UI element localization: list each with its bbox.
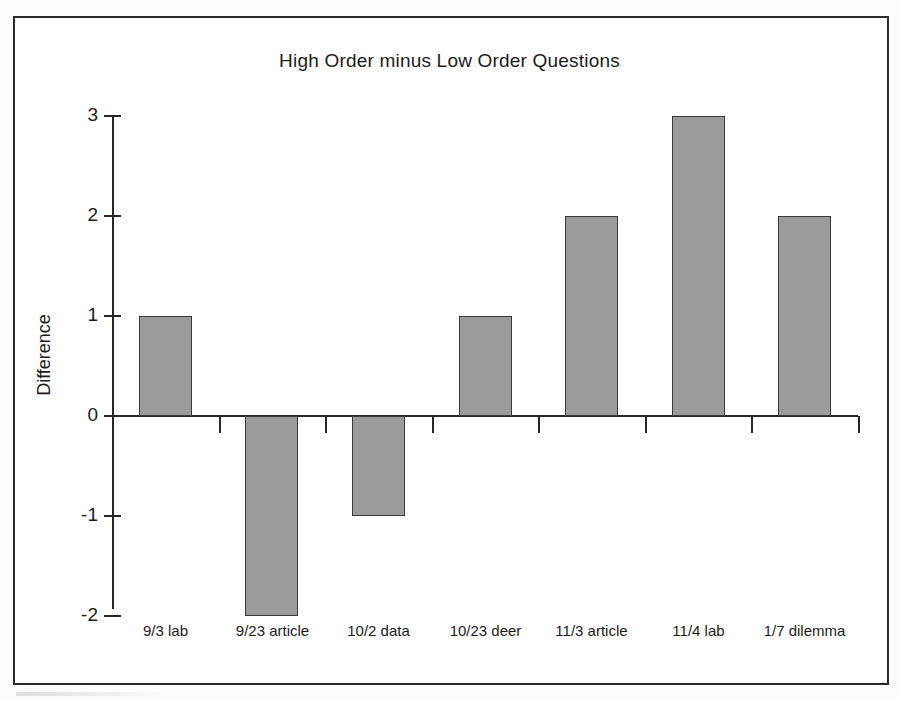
x-axis-category-label: 10/23 deer — [432, 622, 539, 639]
y-axis-tick-label-text: -1 — [58, 505, 98, 524]
scan-edge-artifact — [16, 692, 266, 696]
bar-chart: High Order minus Low Order Questions Dif… — [0, 0, 899, 701]
x-axis-tick — [645, 416, 647, 433]
y-axis-tick — [104, 115, 121, 117]
y-axis-label: Difference — [34, 300, 54, 410]
y-axis-tick-label-text: 3 — [58, 105, 98, 124]
x-axis-category-label: 10/2 data — [325, 622, 432, 639]
bar — [778, 216, 831, 416]
y-axis-tick-label: 2 — [54, 205, 98, 225]
y-axis-line — [112, 115, 114, 609]
x-axis-tick — [219, 416, 221, 433]
bar — [139, 316, 192, 416]
x-axis-category-label: 11/4 lab — [645, 622, 752, 639]
y-axis-tick — [104, 615, 121, 617]
chart-title: High Order minus Low Order Questions — [0, 50, 899, 72]
scanned-page: High Order minus Low Order Questions Dif… — [0, 0, 899, 701]
y-axis-tick-label-text: 1 — [58, 305, 98, 324]
bar — [672, 116, 725, 416]
y-axis-tick — [104, 315, 121, 317]
y-axis-tick-label: 0 — [54, 405, 98, 425]
y-axis-tick-label: -2 — [54, 605, 98, 625]
x-axis-category-label: 11/3 article — [538, 622, 645, 639]
x-axis-tick — [432, 416, 434, 433]
y-axis-tick-label: -1 — [54, 505, 98, 525]
x-axis-tick — [538, 416, 540, 433]
x-axis-category-label: 9/23 article — [219, 622, 326, 639]
x-axis-category-label: 9/3 lab — [112, 622, 219, 639]
y-axis-tick-label-text: -2 — [58, 605, 98, 624]
bar — [352, 416, 405, 516]
y-axis-tick-label: 1 — [54, 305, 98, 325]
x-axis-tick — [858, 416, 860, 433]
y-axis-tick — [104, 415, 121, 417]
bar — [459, 316, 512, 416]
x-axis-category-label: 1/7 dilemma — [751, 622, 858, 639]
x-axis-tick — [325, 416, 327, 433]
y-axis-tick-label-text: 0 — [58, 405, 98, 424]
x-axis-tick — [751, 416, 753, 433]
y-axis-tick-label: 3 — [54, 105, 98, 125]
y-axis-tick — [104, 215, 121, 217]
bar — [565, 216, 618, 416]
y-axis-tick-label-text: 2 — [58, 205, 98, 224]
bar — [245, 416, 298, 616]
y-axis-tick — [104, 515, 121, 517]
